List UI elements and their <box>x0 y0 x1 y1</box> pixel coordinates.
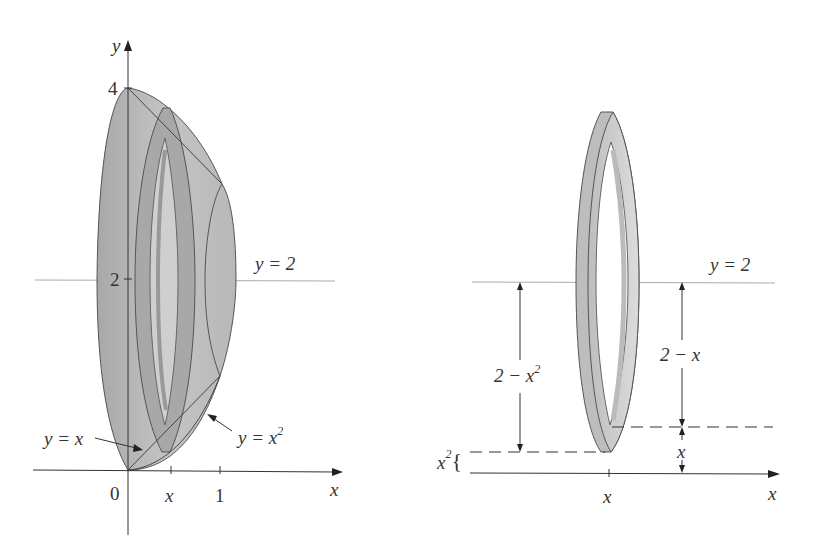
y-axis-label: y <box>112 36 120 55</box>
arrowhead-icon <box>207 414 217 422</box>
label-inner-radius: 2 − x <box>660 345 700 364</box>
label-gap-x: x <box>677 442 685 461</box>
x-axis-arrow-icon <box>768 470 780 478</box>
left-figure <box>33 40 343 535</box>
label-outer-radius: 2 − x2 <box>494 366 540 385</box>
tick-label-2: 2 <box>110 270 120 289</box>
x-axis <box>33 470 335 472</box>
origin-label: 0 <box>110 484 120 503</box>
curve-label-y-equals-x-squared: y = x2 <box>238 428 283 447</box>
tick-label-x-right: x <box>603 487 611 506</box>
x-axis-label: x <box>330 480 338 499</box>
diagram-canvas <box>0 0 815 555</box>
tick-label-x: x <box>165 486 173 505</box>
x-axis-arrow-icon <box>332 468 343 476</box>
line-label-y2-right: y = 2 <box>710 255 750 274</box>
tick-label-1: 1 <box>215 486 225 505</box>
y-axis-arrow-icon <box>124 40 132 51</box>
x-axis-label-right: x <box>768 484 776 503</box>
right-figure <box>470 112 780 478</box>
line-label-y2-left: y = 2 <box>255 254 295 273</box>
curve-label-y-equals-x: y = x <box>44 429 83 448</box>
tick-label-4: 4 <box>108 79 118 98</box>
x-axis-right <box>470 473 770 474</box>
label-bottom-gap: x2{ <box>437 451 462 473</box>
